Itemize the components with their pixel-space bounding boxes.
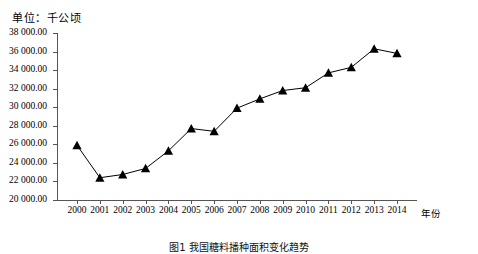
x-tick xyxy=(351,200,352,204)
data-point-marker xyxy=(232,104,241,113)
x-tick xyxy=(374,200,375,204)
y-tick-label: 36 000.00 xyxy=(9,47,47,57)
data-point-marker xyxy=(301,83,310,92)
x-tick-label: 2001 xyxy=(90,206,109,216)
x-tick-label: 2003 xyxy=(136,206,155,216)
x-tick-label: 2000 xyxy=(68,206,87,216)
x-tick xyxy=(328,200,329,204)
x-tick xyxy=(191,200,192,204)
x-tick xyxy=(100,200,101,204)
x-tick xyxy=(260,200,261,204)
data-point-marker xyxy=(255,94,264,103)
y-tick-label: 34 000.00 xyxy=(9,65,47,75)
y-tick-label: 26 000.00 xyxy=(9,140,47,150)
data-point-marker xyxy=(187,124,196,133)
y-tick-label: 30 000.00 xyxy=(9,102,47,112)
y-tick-label: 24 000.00 xyxy=(9,158,47,168)
y-tick-label: 32 000.00 xyxy=(9,84,47,94)
x-tick-label: 2004 xyxy=(159,206,178,216)
x-tick xyxy=(397,200,398,204)
data-point-marker xyxy=(370,44,379,53)
x-tick-label: 2013 xyxy=(365,206,384,216)
x-tick-label: 2012 xyxy=(342,206,361,216)
x-tick-label: 2007 xyxy=(228,206,247,216)
x-tick xyxy=(146,200,147,204)
x-axis-title: 年份 xyxy=(421,206,441,220)
x-tick xyxy=(237,200,238,204)
x-tick-label: 2005 xyxy=(182,206,201,216)
y-tick-label: 38 000.00 xyxy=(9,28,47,38)
data-point-marker xyxy=(347,63,356,72)
unit-label: 单位：千公顷 xyxy=(12,9,81,25)
figure-caption: 图1 我国糖料播种面积变化趋势 xyxy=(0,239,478,254)
x-tick xyxy=(168,200,169,204)
x-tick-label: 2002 xyxy=(113,206,132,216)
x-tick-label: 2006 xyxy=(205,206,224,216)
x-tick xyxy=(214,200,215,204)
x-tick xyxy=(283,200,284,204)
x-tick xyxy=(306,200,307,204)
x-tick-label: 2010 xyxy=(296,206,315,216)
x-tick-label: 2009 xyxy=(273,206,292,216)
data-series-line xyxy=(57,33,417,200)
data-point-marker xyxy=(141,164,150,173)
x-tick-label: 2008 xyxy=(250,206,269,216)
x-tick xyxy=(77,200,78,204)
y-tick-label: 20 000.00 xyxy=(9,195,47,205)
data-point-marker xyxy=(72,141,81,150)
x-tick-label: 2014 xyxy=(388,206,407,216)
y-tick-label: 22 000.00 xyxy=(9,177,47,187)
y-tick-label: 28 000.00 xyxy=(9,121,47,131)
x-tick-label: 2011 xyxy=(319,206,338,216)
x-tick xyxy=(123,200,124,204)
plot-area: 38 000.0036 000.0034 000.0032 000.0030 0… xyxy=(57,33,417,200)
